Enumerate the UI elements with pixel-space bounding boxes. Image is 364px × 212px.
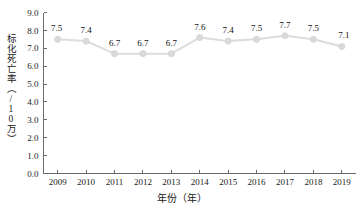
x-tick-label: 2015	[219, 177, 238, 187]
y-tick-label: 7.0	[27, 43, 39, 53]
data-point-label: 7.5	[51, 23, 63, 33]
data-point-marker	[282, 33, 288, 39]
x-tick-label: 2009	[49, 177, 68, 187]
data-point-label: 7.5	[251, 23, 263, 33]
x-tick-label: 2016	[248, 177, 267, 187]
data-point-label: 7.4	[223, 25, 235, 35]
data-point-marker	[55, 36, 61, 42]
y-tick-label: 2.0	[27, 133, 39, 143]
x-axis-title-text: 年份（年）	[157, 193, 207, 204]
plot-area: 0.01.02.03.04.05.06.07.08.09.0 200920102…	[0, 0, 364, 212]
data-point-label: 6.7	[137, 38, 149, 48]
x-tick-label: 2011	[106, 177, 124, 187]
data-point-marker	[168, 51, 174, 57]
y-tick-label: 1.0	[27, 151, 39, 161]
data-point-label: 7.1	[338, 30, 349, 40]
y-tick-label: 6.0	[27, 61, 39, 71]
x-tick-label: 2013	[162, 177, 181, 187]
x-tick-label: 2010	[77, 177, 96, 187]
data-point-marker	[197, 34, 203, 40]
data-point-marker	[225, 38, 231, 44]
line-chart: 标化死亡率（/10万） 0.01.02.03.04.05.06.07.08.09…	[0, 0, 364, 212]
y-tick-label: 8.0	[27, 26, 39, 36]
data-point-label: 7.4	[80, 25, 92, 35]
data-point-label: 6.7	[109, 38, 121, 48]
data-markers	[55, 33, 345, 57]
x-tick-label: 2014	[191, 177, 210, 187]
data-point-label: 6.7	[166, 38, 178, 48]
x-axis: 2009201020112012201320142015201620172018…	[44, 170, 357, 187]
x-tick-label: 2019	[333, 177, 352, 187]
data-point-label: 7.6	[194, 22, 206, 32]
data-point-marker	[111, 51, 117, 57]
x-tick-label: 2017	[276, 177, 295, 187]
y-axis: 0.01.02.03.04.05.06.07.08.09.0	[27, 8, 47, 179]
x-tick-label: 2012	[134, 177, 152, 187]
data-point-label: 7.7	[279, 20, 291, 30]
x-tick-label: 2018	[304, 177, 323, 187]
y-tick-label: 5.0	[27, 79, 39, 89]
data-point-marker	[339, 43, 345, 49]
y-tick-label: 3.0	[27, 115, 39, 125]
y-tick-label: 4.0	[27, 97, 39, 107]
data-point-marker	[140, 51, 146, 57]
data-point-label: 7.5	[308, 23, 320, 33]
data-point-marker	[83, 38, 89, 44]
y-tick-label: 0.0	[27, 169, 39, 179]
data-point-marker	[310, 36, 316, 42]
data-point-marker	[253, 36, 259, 42]
y-tick-label: 9.0	[27, 8, 39, 18]
data-point-labels: 7.57.46.76.76.77.67.47.57.77.57.1	[51, 20, 349, 48]
x-axis-title: 年份（年）	[0, 190, 364, 205]
